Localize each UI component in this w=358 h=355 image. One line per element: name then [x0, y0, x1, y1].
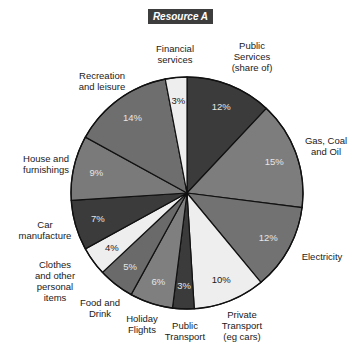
label-clothes: Clothesand otherpersonalitems [30, 259, 80, 303]
label-private-transport: PrivateTransport(eg cars) [212, 309, 272, 342]
slice-percent-label: 14% [123, 112, 143, 123]
label-car-manufacture: Carmanufacture [14, 219, 76, 241]
slice-percent-label: 6% [151, 276, 165, 287]
label-holiday-flights: HolidayFlights [122, 313, 162, 335]
label-recreation-leisure: Recreationand leisure [72, 70, 132, 92]
label-house-furnishings: House andfurnishings [16, 153, 76, 175]
label-electricity: Electricity [292, 251, 352, 262]
slice-percent-label: 12% [212, 101, 232, 112]
label-financial-services: Financialservices [150, 43, 200, 65]
pie-slices [71, 77, 303, 309]
label-food-drink: Food andDrink [75, 297, 125, 319]
slice-percent-label: 9% [90, 167, 104, 178]
slice-percent-label: 4% [105, 242, 119, 253]
label-gas-coal-oil: Gas, Coaland Oil [301, 135, 351, 157]
slice-percent-label: 5% [123, 261, 137, 272]
slice-percent-label: 3% [177, 280, 191, 291]
slice-percent-label: 3% [171, 95, 185, 106]
slice-percent-label: 12% [259, 232, 279, 243]
slice-percent-label: 15% [265, 156, 285, 167]
slice-percent-label: 10% [212, 274, 232, 285]
slice-percent-label: 7% [91, 213, 105, 224]
label-public-services: PublicServices(share of) [222, 40, 282, 73]
label-public-transport: PublicTransport [160, 320, 210, 342]
